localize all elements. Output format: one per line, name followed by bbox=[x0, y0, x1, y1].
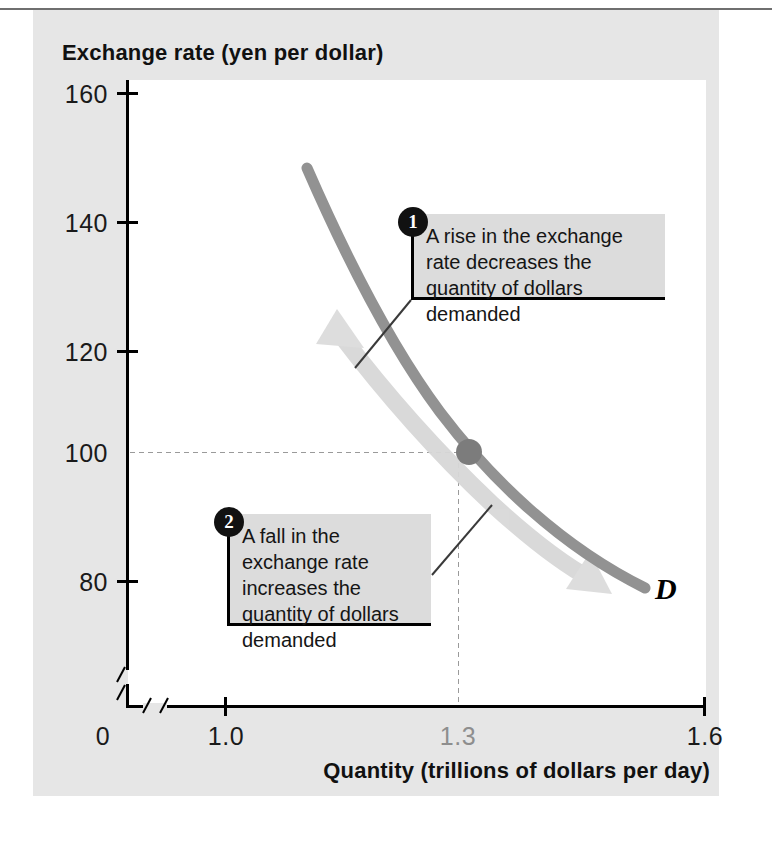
callout-2-leader-line bbox=[432, 505, 492, 575]
callout-box-2: A fall in the exchange rate increases th… bbox=[227, 514, 431, 626]
curve-layer bbox=[0, 0, 772, 841]
callout-2-number-badge: 2 bbox=[214, 507, 244, 537]
figure-root: Exchange rate (yen per dollar) 160 140 1… bbox=[0, 0, 772, 841]
callout-box-1: A rise in the exchange rate decreases th… bbox=[411, 214, 665, 300]
callout-1-number-badge: 1 bbox=[398, 207, 428, 237]
demand-curve-label: D bbox=[655, 572, 677, 606]
equilibrium-point-marker bbox=[456, 439, 482, 465]
x-axis-title: Quantity (trillions of dollars per day) bbox=[323, 758, 710, 784]
